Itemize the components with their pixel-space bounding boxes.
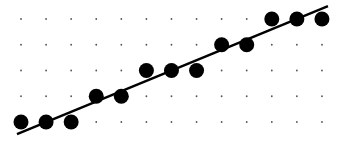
grid-dot <box>120 44 122 46</box>
grid-dot <box>221 18 223 20</box>
grid-dot <box>196 18 198 20</box>
grid-dot <box>246 70 248 72</box>
data-point <box>139 63 154 78</box>
grid-dot <box>45 95 47 97</box>
grid-dot <box>20 18 22 20</box>
grid-dot <box>246 95 248 97</box>
grid-dot <box>20 44 22 46</box>
data-point <box>189 63 204 78</box>
grid-dot <box>95 18 97 20</box>
grid-dot <box>296 44 298 46</box>
grid-dot <box>221 70 223 72</box>
grid-dot <box>70 44 72 46</box>
grid-dot <box>20 70 22 72</box>
grid-dot <box>95 70 97 72</box>
grid-dot <box>45 44 47 46</box>
grid-dot <box>296 95 298 97</box>
grid-dot <box>120 121 122 123</box>
grid-dot <box>246 121 248 123</box>
data-point <box>114 89 129 104</box>
grid-dot <box>120 18 122 20</box>
data-point <box>314 12 329 27</box>
grid-dot <box>296 70 298 72</box>
data-point <box>64 115 79 130</box>
grid-dot <box>221 121 223 123</box>
data-point <box>39 115 54 130</box>
grid-dot <box>171 44 173 46</box>
data-point <box>239 37 254 52</box>
grid-dot <box>321 44 323 46</box>
grid-dot <box>246 18 248 20</box>
grid-dot <box>271 44 273 46</box>
grid-dot <box>146 95 148 97</box>
grid-dot <box>120 70 122 72</box>
grid-dot <box>196 44 198 46</box>
grid-dot <box>146 18 148 20</box>
grid-dot <box>70 70 72 72</box>
grid-dot <box>45 70 47 72</box>
grid-dot <box>171 121 173 123</box>
grid-dot <box>95 44 97 46</box>
grid-dot <box>271 121 273 123</box>
data-point <box>89 89 104 104</box>
grid-dot <box>271 70 273 72</box>
grid-dot <box>321 70 323 72</box>
data-point <box>289 12 304 27</box>
grid-dot <box>146 121 148 123</box>
grid-dot <box>271 95 273 97</box>
grid-dot <box>45 18 47 20</box>
data-point <box>14 115 29 130</box>
grid-dot <box>321 95 323 97</box>
grid-dot <box>171 95 173 97</box>
grid-dot <box>146 44 148 46</box>
scatter-chart <box>0 0 343 141</box>
data-point <box>214 37 229 52</box>
grid-dot <box>70 95 72 97</box>
grid-dot <box>221 95 223 97</box>
grid-dot <box>95 121 97 123</box>
grid-dot <box>171 18 173 20</box>
grid-dot <box>70 18 72 20</box>
grid-dot <box>196 95 198 97</box>
data-point <box>164 63 179 78</box>
grid-dot <box>196 121 198 123</box>
data-points <box>14 12 330 130</box>
grid-dot <box>20 95 22 97</box>
grid-dot <box>321 121 323 123</box>
grid-dot <box>296 121 298 123</box>
data-point <box>264 12 279 27</box>
